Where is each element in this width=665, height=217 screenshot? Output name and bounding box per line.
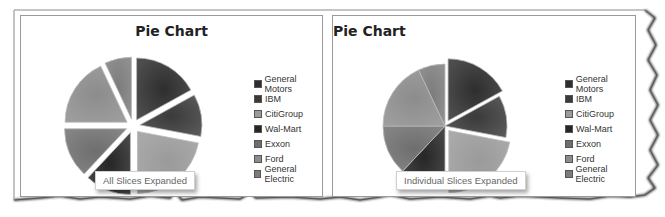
legend-label: CitiGroup	[576, 109, 614, 119]
legend-item: CitiGroup	[254, 106, 322, 121]
legend-item: General Motors	[565, 76, 635, 91]
legend-swatch-icon	[254, 155, 262, 163]
legend-item: Exxon	[565, 136, 635, 151]
legend-swatch-icon	[254, 110, 262, 118]
legend: General MotorsIBMCitiGroupWal-MartExxonF…	[254, 76, 322, 181]
legend-swatch-icon	[565, 110, 573, 118]
legend-swatch-icon	[254, 80, 262, 88]
legend-label: Exxon	[265, 139, 290, 149]
legend-label: IBM	[265, 94, 281, 104]
legend-label: Ford	[576, 154, 595, 164]
legend-swatch-icon	[254, 95, 262, 103]
legend-label: General Motors	[576, 74, 635, 94]
legend: General MotorsIBMCitiGroupWal-MartExxonF…	[565, 76, 635, 181]
legend-label: General Motors	[265, 74, 322, 94]
chart-title: Pie Chart	[21, 23, 322, 39]
legend-item: General Motors	[254, 76, 322, 91]
legend-label: Exxon	[576, 139, 601, 149]
chart-individual-slices-expanded: Pie Chart General MotorsIBMCitiGroupWal-…	[332, 15, 636, 197]
legend-label: IBM	[576, 94, 592, 104]
legend-label: CitiGroup	[265, 109, 303, 119]
legend-swatch-icon	[565, 95, 573, 103]
legend-item: General Electric	[565, 166, 635, 181]
legend-swatch-icon	[565, 125, 573, 133]
legend-item: Wal-Mart	[254, 121, 322, 136]
legend-label: Wal-Mart	[576, 124, 612, 134]
legend-swatch-icon	[565, 155, 573, 163]
legend-swatch-icon	[565, 80, 573, 88]
legend-item: General Electric	[254, 166, 322, 181]
chart-caption: Individual Slices Expanded	[396, 171, 526, 190]
legend-label: General Electric	[264, 164, 322, 184]
legend-label: Wal-Mart	[265, 124, 301, 134]
chart-title: Pie Chart	[333, 23, 635, 39]
chart-all-slices-expanded: Pie Chart General MotorsIBMCitiGroupWal-…	[20, 15, 323, 197]
legend-item: Exxon	[254, 136, 322, 151]
legend-swatch-icon	[254, 170, 261, 178]
legend-label: Ford	[265, 154, 284, 164]
legend-swatch-icon	[254, 140, 262, 148]
legend-swatch-icon	[254, 125, 262, 133]
legend-swatch-icon	[565, 170, 573, 178]
legend-swatch-icon	[565, 140, 573, 148]
chart-caption: All Slices Expanded	[95, 171, 195, 190]
legend-item: CitiGroup	[565, 106, 635, 121]
legend-label: General Electric	[576, 164, 635, 184]
legend-item: Wal-Mart	[565, 121, 635, 136]
